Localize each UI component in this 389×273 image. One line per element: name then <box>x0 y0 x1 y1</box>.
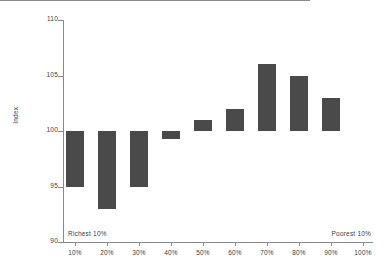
x-tick-mark <box>363 242 364 246</box>
bar-50pct <box>194 120 212 131</box>
y-tick-label-wrap: 100 <box>26 127 58 135</box>
y-tick-label: 105 <box>34 72 58 79</box>
x-tick-mark <box>203 242 204 246</box>
x-tick-mark <box>331 242 332 246</box>
y-tick-mark <box>58 76 63 77</box>
y-tick-label-wrap: 90 <box>26 238 58 246</box>
bar-30pct <box>130 131 148 187</box>
x-tick-mark <box>235 242 236 246</box>
x-axis-line <box>63 242 373 243</box>
x-tick-mark <box>75 242 76 246</box>
x-tick-mark <box>267 242 268 246</box>
y-tick-label: 95 <box>34 183 58 190</box>
x-tick-mark <box>171 242 172 246</box>
bar-70pct <box>258 64 276 131</box>
y-tick-label: 90 <box>34 238 58 245</box>
y-tick-label: 110 <box>34 16 58 23</box>
y-tick-label-wrap: 95 <box>26 183 58 191</box>
x-tick-label: 100% <box>343 250 383 257</box>
y-tick-mark <box>58 187 63 188</box>
bar-chart: Index 9095100105110 10%20%30%40%50%60%70… <box>0 0 389 273</box>
bar-20pct <box>98 131 116 209</box>
annotation-richest: Richest 10% <box>68 231 107 238</box>
y-tick-label-wrap: 105 <box>26 72 58 80</box>
baseline-100 <box>0 0 310 1</box>
bar-10pct <box>66 131 84 187</box>
bar-80pct <box>290 76 308 132</box>
annotation-poorest: Poorest 10% <box>332 231 371 238</box>
x-tick-mark <box>107 242 108 246</box>
y-axis-line <box>63 20 64 243</box>
bar-60pct <box>226 109 244 131</box>
y-tick-mark <box>58 242 63 243</box>
bar-40pct <box>162 131 180 139</box>
y-tick-mark <box>58 20 63 21</box>
y-tick-label-wrap: 110 <box>26 16 58 24</box>
y-axis-title: Index <box>13 92 20 138</box>
y-tick-label: 100 <box>34 127 58 134</box>
x-tick-mark <box>139 242 140 246</box>
y-tick-mark <box>58 131 63 132</box>
bar-90pct <box>322 98 340 131</box>
x-tick-mark <box>299 242 300 246</box>
